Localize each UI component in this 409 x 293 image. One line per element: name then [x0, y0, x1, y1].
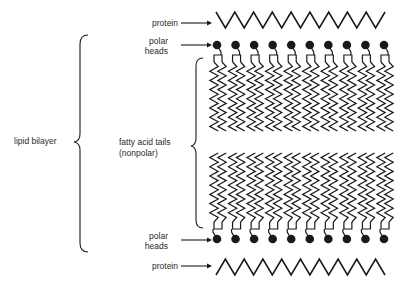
protein-bottom-zigzag	[216, 259, 385, 275]
polar-head	[343, 235, 352, 244]
fatty-acid-label-line1: fatty acid tails	[119, 137, 171, 147]
polar-heads-bottom-label-line1: polar	[132, 231, 168, 241]
fatty-acid-tails-bottom	[210, 153, 393, 222]
fatty-acid-tail	[311, 153, 319, 222]
fatty-acid-label-line2: (nonpolar)	[119, 148, 158, 158]
fatty-acid-tail	[274, 62, 282, 131]
fatty-acid-tail	[218, 62, 226, 131]
fatty-acid-tail	[247, 62, 255, 131]
label-arrows	[181, 21, 212, 269]
polar-heads-top-label-line1: polar	[132, 36, 168, 46]
polar-heads-bottom	[213, 222, 389, 243]
fatty-acid-tail	[366, 153, 374, 222]
protein-top-zigzag	[216, 12, 385, 28]
fatty-acid-tail	[228, 62, 236, 131]
fatty-acid-tail	[255, 153, 263, 222]
fatty-acid-tail	[329, 62, 337, 131]
fatty-acid-tail	[348, 62, 356, 131]
fatty-acid-tail	[385, 62, 393, 131]
fatty-acid-tail	[377, 153, 385, 222]
lipid-bilayer-bracket	[74, 35, 88, 252]
fatty-acid-tail	[292, 62, 300, 131]
membrane-diagram	[0, 0, 409, 293]
fatty-acid-tail	[210, 153, 218, 222]
fatty-acid-tail	[228, 153, 236, 222]
fatty-acid-tail	[321, 62, 329, 131]
fatty-acid-tail	[236, 62, 244, 131]
fatty-acid-tail	[358, 153, 366, 222]
polar-heads-bottom-label-line2: heads	[132, 241, 168, 251]
arrow-polar-heads-bottom-head	[207, 238, 212, 243]
fatty-acid-tail	[340, 62, 348, 131]
polar-head	[268, 235, 277, 244]
fatty-acid-tail	[303, 153, 311, 222]
fatty-acid-tail	[284, 62, 292, 131]
arrow-protein-bottom-head	[207, 264, 212, 269]
polar-heads-top	[213, 41, 389, 62]
arrow-polar-heads-top-head	[207, 43, 212, 48]
fatty-acid-tail	[303, 62, 311, 131]
protein-bottom-label: protein	[132, 261, 178, 271]
arrow-protein-top-head	[207, 21, 212, 26]
protein-top-layer	[216, 12, 385, 28]
fatty-acid-tail	[236, 153, 244, 222]
fatty-acid-tails-top	[210, 62, 393, 131]
polar-head	[324, 235, 333, 244]
fatty-acid-tail	[311, 62, 319, 131]
fatty-acid-tail	[292, 153, 300, 222]
fatty-acid-tail	[266, 62, 274, 131]
fatty-acid-bracket	[191, 58, 203, 228]
fatty-acid-tail	[274, 153, 282, 222]
protein-top-label: protein	[132, 18, 178, 28]
lipid-bilayer-label: lipid bilayer	[14, 136, 57, 146]
fatty-acid-tail	[321, 153, 329, 222]
fatty-acid-tail	[218, 153, 226, 222]
fatty-acid-tail	[266, 153, 274, 222]
fatty-acid-tail	[329, 153, 337, 222]
fatty-acid-tail	[284, 153, 292, 222]
fatty-acid-tail	[210, 62, 218, 131]
fatty-acid-tail	[377, 62, 385, 131]
protein-bottom-layer	[216, 259, 385, 275]
fatty-acid-tail	[358, 62, 366, 131]
fatty-acid-tail	[255, 62, 263, 131]
fatty-acid-tail	[366, 62, 374, 131]
fatty-acid-tail	[340, 153, 348, 222]
fatty-acid-tail	[385, 153, 393, 222]
fatty-acid-tail	[247, 153, 255, 222]
fatty-acid-tail	[348, 153, 356, 222]
polar-heads-top-label-line2: heads	[132, 46, 168, 56]
